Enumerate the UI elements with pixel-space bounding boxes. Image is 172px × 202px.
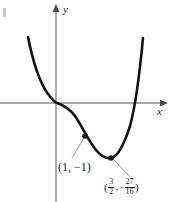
minimum-x-denominator: 2	[108, 187, 114, 197]
y-axis-label: y	[63, 4, 68, 15]
inflection-point-label: (1, −1)	[58, 161, 91, 173]
minimum-x-fraction: 3 2	[108, 178, 114, 196]
y-axis-arrow-icon	[53, 4, 60, 12]
minimum-x-numerator: 3	[108, 178, 114, 187]
minimum-leader-line	[113, 159, 130, 177]
minimum-y-denominator: 16	[125, 187, 135, 197]
x-axis-label: x	[157, 106, 162, 117]
minimum-close-paren: )	[135, 182, 139, 193]
minimum-minus-sign: −	[119, 183, 124, 192]
figure-container: y x (1, −1) ( 3 2 , − 27 16 )	[0, 0, 172, 202]
inflection-point-dot	[82, 133, 88, 139]
inflection-leader-line	[72, 138, 84, 158]
quartic-curve	[28, 37, 143, 158]
minimum-open-paren: (	[104, 182, 108, 193]
minimum-point-dot	[108, 155, 114, 161]
minimum-y-fraction: 27 16	[125, 178, 135, 196]
x-axis	[0, 100, 168, 107]
minimum-point-label: ( 3 2 , − 27 16 )	[104, 178, 139, 196]
minimum-y-numerator: 27	[125, 178, 135, 187]
